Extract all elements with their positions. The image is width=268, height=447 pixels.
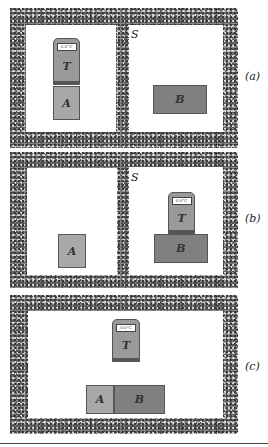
panel-a-block-b: B (153, 85, 207, 114)
panel-a-label: (a) (245, 70, 260, 83)
panel-b-label: (b) (245, 212, 261, 225)
panel-b-block-b: B (154, 234, 208, 263)
panel-a-room-label: S (131, 28, 139, 41)
thermometer-display: 0.0°C (116, 324, 136, 332)
panel-b-room-label: S (131, 171, 139, 184)
panel-a-thermometer: 0.0°C T (53, 38, 80, 85)
thermometer-contact (54, 81, 79, 84)
thermometer-display: 0.0°C (57, 43, 77, 51)
panel-b-block-a: A (58, 234, 86, 268)
panel-b-thermometer: 0.0°C T (168, 192, 195, 234)
panel-c-thermometer: 0.0°C T (112, 319, 140, 362)
thermometer-contact (169, 230, 194, 233)
panel-c-label: (c) (245, 360, 260, 373)
thermometer-label: T (177, 212, 185, 225)
panel-a-block-a: A (53, 86, 80, 120)
thermometer-label: T (62, 60, 70, 73)
thermometer-display: 0.0°C (172, 197, 192, 205)
thermometer-contact (113, 358, 139, 361)
panel-c-block-b: B (114, 385, 165, 414)
panel-a-right-room (129, 25, 223, 132)
panel-c-block-a: A (86, 385, 114, 414)
divider-rule (0, 443, 268, 444)
thermometer-label: T (122, 339, 130, 352)
